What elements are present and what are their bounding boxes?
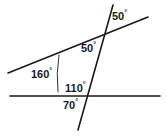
angle-label-110: 110° (65, 81, 86, 94)
angle-value-middle-50: 50 (81, 42, 93, 54)
degree-symbol-icon: ° (75, 98, 78, 105)
angle-label-top-50: 50° (112, 9, 127, 22)
vertical-angle-arc (57, 55, 59, 92)
angle-label-middle-50: 50° (81, 41, 96, 54)
angle-label-70: 70° (63, 98, 78, 111)
degree-symbol-icon: ° (124, 9, 127, 16)
degree-symbol-icon: ° (93, 41, 96, 48)
geometry-figure: 50° 50° 160° 110° 70° (0, 0, 166, 140)
angle-value-top-50: 50 (112, 10, 124, 22)
angle-value-160: 160 (31, 68, 49, 80)
degree-symbol-icon: ° (83, 81, 86, 88)
transversal-line (78, 5, 113, 130)
angle-label-160: 160° (31, 67, 52, 80)
degree-symbol-icon: ° (49, 67, 52, 74)
angle-value-70: 70 (63, 99, 75, 111)
geometry-svg (0, 0, 166, 140)
angle-value-110: 110 (65, 82, 83, 94)
upper-slanted-line (8, 17, 148, 73)
